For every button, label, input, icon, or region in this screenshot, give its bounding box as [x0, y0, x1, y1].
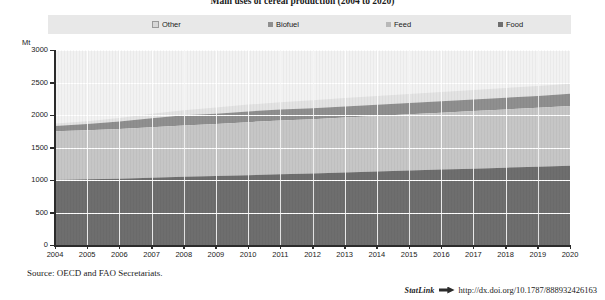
- x-tick-label-2016: 2016: [426, 250, 456, 259]
- x-tick-label-2010: 2010: [233, 250, 263, 259]
- y-tick-label-3000: 3000: [8, 45, 48, 54]
- y-tick-label-wrap-2500: 2500: [8, 78, 48, 88]
- x-tick-2014: [376, 245, 378, 249]
- legend-item-biofuel[interactable]: Biofuel: [268, 19, 299, 30]
- gridline-x-2013: [345, 50, 346, 245]
- gridline-x-2007: [152, 50, 153, 245]
- y-tick-label-wrap-0: 0: [8, 240, 48, 250]
- gridline-x-2009: [216, 50, 217, 245]
- y-tick-label-500: 500: [8, 208, 48, 217]
- gridline-x-2016: [441, 50, 442, 245]
- x-tick-2011: [280, 245, 282, 249]
- y-tick-2500: [50, 82, 55, 84]
- x-tick-label-2015: 2015: [394, 250, 424, 259]
- x-tick-label-2012: 2012: [298, 250, 328, 259]
- gridline-x-2012: [313, 50, 314, 245]
- y-tick-label-2000: 2000: [8, 110, 48, 119]
- legend-label-other: Other: [162, 20, 181, 29]
- y-tick-500: [50, 212, 55, 214]
- x-tick-label-2018: 2018: [491, 250, 521, 259]
- legend-label-food: Food: [506, 20, 523, 29]
- y-tick-2000: [50, 115, 55, 117]
- legend-swatch-biofuel: [268, 22, 273, 27]
- x-tick-2018: [505, 245, 507, 249]
- legend-item-food[interactable]: Food: [498, 19, 523, 30]
- gridline-x-2005: [87, 50, 88, 245]
- statlink-label: StatLink: [404, 286, 434, 295]
- y-tick-label-2500: 2500: [8, 78, 48, 87]
- plot-area: [55, 50, 570, 245]
- x-tick-label-2006: 2006: [104, 250, 134, 259]
- x-tick-label-2008: 2008: [169, 250, 199, 259]
- gridline-x-2011: [280, 50, 281, 245]
- x-tick-2009: [215, 245, 217, 249]
- x-tick-2004: [55, 245, 57, 249]
- x-tick-2007: [151, 245, 153, 249]
- legend-swatch-food: [498, 22, 503, 27]
- gridline-x-2010: [248, 50, 249, 245]
- y-tick-label-0: 0: [8, 240, 48, 249]
- x-tick-label-2013: 2013: [330, 250, 360, 259]
- gridline-x-2017: [473, 50, 474, 245]
- legend-swatch-other: [152, 21, 159, 28]
- x-tick-2013: [344, 245, 346, 249]
- gridline-x-2014: [377, 50, 378, 245]
- x-tick-2012: [312, 245, 314, 249]
- statlink-arrow-icon: [439, 287, 455, 294]
- x-tick-2020: [570, 245, 572, 249]
- legend-swatch-feed: [386, 22, 391, 27]
- x-tick-2006: [119, 245, 121, 249]
- x-tick-2015: [409, 245, 411, 249]
- y-tick-label-wrap-1000: 1000: [8, 175, 48, 185]
- gridline-x-2019: [538, 50, 539, 245]
- y-tick-label-wrap-500: 500: [8, 208, 48, 218]
- x-tick-2019: [537, 245, 539, 249]
- gridline-x-2008: [184, 50, 185, 245]
- source-note: Source: OECD and FAO Secretariats.: [27, 268, 163, 278]
- legend-label-biofuel: Biofuel: [276, 20, 299, 29]
- x-tick-label-2009: 2009: [201, 250, 231, 259]
- x-tick-label-2005: 2005: [72, 250, 102, 259]
- legend-label-feed: Feed: [394, 20, 411, 29]
- x-tick-label-2014: 2014: [362, 250, 392, 259]
- y-tick-label-1000: 1000: [8, 175, 48, 184]
- x-tick-label-2019: 2019: [523, 250, 553, 259]
- chart-legend: Other Biofuel Feed Food: [48, 15, 571, 34]
- x-tick-2008: [183, 245, 185, 249]
- x-tick-label-2020: 2020: [555, 250, 585, 259]
- y-tick-label-wrap-1500: 1500: [8, 143, 48, 153]
- x-tick-label-2007: 2007: [137, 250, 167, 259]
- gridline-x-2015: [409, 50, 410, 245]
- x-tick-label-2017: 2017: [458, 250, 488, 259]
- x-tick-2005: [87, 245, 89, 249]
- y-tick-3000: [50, 50, 55, 52]
- y-tick-1500: [50, 147, 55, 149]
- figure-container: Main uses of cereal production (2004 to …: [0, 0, 605, 300]
- y-tick-label-wrap-2000: 2000: [8, 110, 48, 120]
- y-tick-label-wrap-3000: 3000: [8, 45, 48, 55]
- statlink[interactable]: StatLink http://dx.doi.org/10.1787/88893…: [404, 285, 597, 295]
- y-tick-1000: [50, 180, 55, 182]
- legend-item-other[interactable]: Other: [152, 19, 181, 30]
- gridline-x-2006: [119, 50, 120, 245]
- x-tick-label-2011: 2011: [265, 250, 295, 259]
- y-tick-label-1500: 1500: [8, 143, 48, 152]
- x-tick-2016: [441, 245, 443, 249]
- x-tick-label-2004: 2004: [40, 250, 70, 259]
- statlink-url[interactable]: http://dx.doi.org/10.1787/888932426163: [459, 285, 597, 295]
- gridline-x-2018: [506, 50, 507, 245]
- legend-item-feed[interactable]: Feed: [386, 19, 411, 30]
- x-tick-2010: [248, 245, 250, 249]
- chart-title: Main uses of cereal production (2004 to …: [0, 0, 605, 6]
- x-tick-2017: [473, 245, 475, 249]
